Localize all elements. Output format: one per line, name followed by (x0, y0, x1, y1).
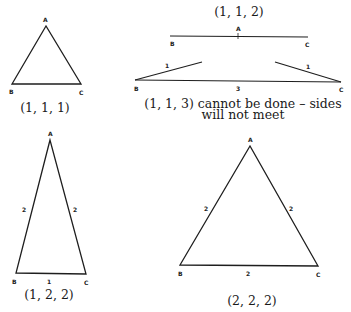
t111-vertex-b: B (9, 88, 14, 95)
t222-vertex-a: A (248, 136, 253, 143)
t222-base-label: 2 (246, 270, 250, 277)
t122-side-left-label: 2 (22, 206, 26, 213)
t113-side-right-label: 1 (306, 63, 310, 70)
triangle-1-1-1 (12, 26, 81, 84)
t222-side-right-label: 2 (289, 205, 293, 212)
t113-side-left-label: 1 (165, 62, 169, 69)
caption-1-1-3-line2: will not meet (202, 108, 285, 121)
triangle-2-2-2 (180, 146, 318, 266)
caption-1-2-2: (1, 2, 2) (24, 288, 74, 301)
t122-vertex-c: C (84, 279, 89, 286)
caption-2-2-2: (2, 2, 2) (227, 294, 277, 307)
t111-vertex-c: C (79, 89, 84, 96)
t122-vertex-b: B (12, 278, 17, 285)
t112-vertex-a: A (236, 25, 241, 32)
t112-vertex-c: C (305, 41, 310, 48)
t122-vertex-a: A (48, 130, 53, 137)
t111-vertex-a: A (43, 16, 48, 23)
triangle-figure: A B C A B C 1 1 3 B C A 2 2 B 1 C A 2 2 … (0, 0, 351, 312)
t122-base-label: 1 (47, 278, 51, 285)
t222-vertex-c: C (316, 271, 321, 278)
t113-base-label: 3 (236, 85, 240, 92)
t112-vertex-b: B (170, 40, 175, 47)
t113-vertex-c: C (339, 86, 344, 93)
t122-side-right-label: 2 (73, 206, 77, 213)
t222-vertex-b: B (178, 270, 183, 277)
caption-1-1-2: (1, 1, 2) (214, 5, 264, 18)
t113-vertex-b: B (134, 85, 139, 92)
triangle-1-1-2 (170, 33, 308, 39)
t222-side-left-label: 2 (204, 205, 208, 212)
caption-1-1-1: (1, 1, 1) (20, 101, 70, 114)
